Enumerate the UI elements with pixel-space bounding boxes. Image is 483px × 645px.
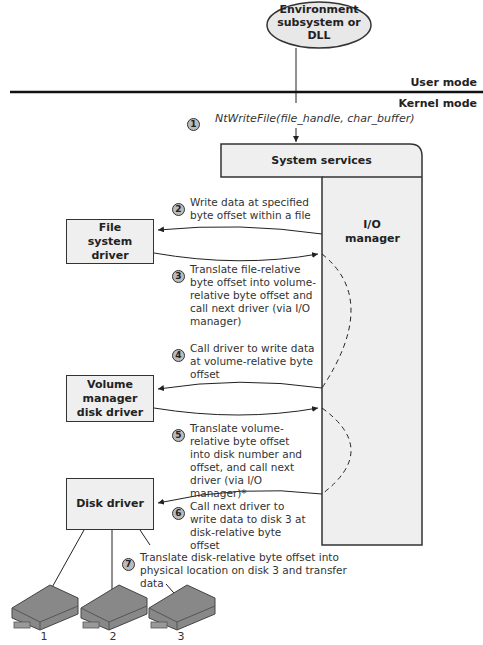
step-7-badge: 7 — [122, 552, 135, 571]
step-6-badge: 6 — [172, 501, 185, 520]
step-1-badge: 1 — [187, 112, 200, 131]
step-2-badge: 2 — [172, 197, 185, 216]
step-4-text: Call driver to write data at volume-rela… — [190, 342, 320, 381]
step-2-text: Write data at specified byte offset with… — [190, 196, 320, 222]
ntwritefile-call: NtWriteFile(file_handle, char_buffer) — [215, 112, 415, 125]
user-mode-label: User mode — [410, 76, 477, 89]
kernel-mode-label: Kernel mode — [399, 97, 477, 110]
step-7-text: Translate disk-relative byte offset into… — [140, 551, 355, 590]
disk-driver-box: Disk driver — [66, 478, 154, 530]
system-services-label: System services — [221, 144, 422, 177]
step-5-badge: 5 — [172, 423, 185, 442]
volume-manager-driver-box: Volume manager disk driver — [66, 375, 154, 422]
step-4-badge: 4 — [172, 343, 185, 362]
environment-label: Environment subsystem or DLL — [275, 3, 363, 42]
io-manager-label: I/O manager — [345, 218, 399, 246]
disk-3-icon — [149, 585, 215, 630]
disk-2-icon — [81, 585, 147, 630]
step-6-text: Call next driver to write data to disk 3… — [190, 500, 310, 552]
disk-3-label: 3 — [171, 630, 191, 643]
step-3-text: Translate file-relative byte offset into… — [190, 263, 320, 328]
file-system-driver-box: File system driver — [66, 219, 154, 264]
disk-2-label: 2 — [103, 630, 123, 643]
disk-1-label: 1 — [34, 630, 54, 643]
step-3-badge: 3 — [172, 264, 185, 283]
disk-1-icon — [12, 585, 78, 630]
step-5-text: Translate volume-relative byte offset in… — [190, 422, 312, 500]
